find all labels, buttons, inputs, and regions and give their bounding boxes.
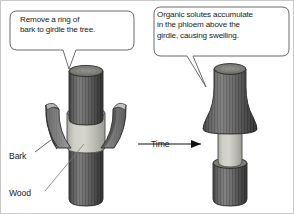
label-wood: Wood: [9, 188, 31, 198]
leader-line-bark: [35, 140, 51, 152]
stage-before-group: [35, 65, 126, 206]
label-time: Time: [151, 139, 169, 149]
figure-container: Remove a ring of bark to girdle the tree…: [0, 0, 294, 214]
callout-left-bubble: [10, 11, 134, 69]
trunk-upper-left: [69, 65, 103, 125]
label-bark: Bark: [9, 151, 26, 161]
time-arrow: [138, 140, 201, 148]
trunk-swollen-right: [203, 64, 257, 134]
stage-after-group: [203, 64, 257, 206]
girdling-illustration: [1, 1, 294, 214]
